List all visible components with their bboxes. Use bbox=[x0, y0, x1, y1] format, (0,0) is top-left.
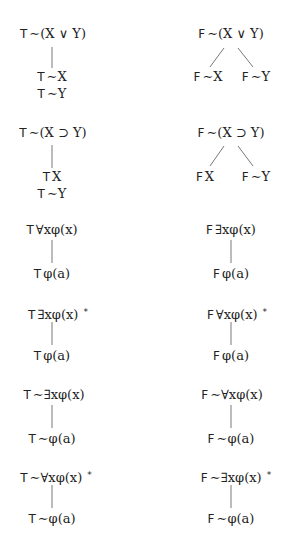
formula-text: ∼Y bbox=[47, 186, 66, 201]
formula-text: ∼φ(a) bbox=[217, 511, 255, 526]
sign-label: F bbox=[242, 70, 249, 84]
formula-text: φ(a) bbox=[222, 266, 249, 281]
star-marker: * bbox=[83, 307, 88, 317]
sign-label: F bbox=[206, 223, 213, 237]
formula-text: X bbox=[205, 169, 214, 184]
formula-text: φ(a) bbox=[222, 348, 249, 363]
sign-label: T bbox=[28, 308, 35, 322]
rule-root-formula: F∀xφ(x)* bbox=[207, 305, 267, 322]
rule-child-formula: Fφ(a) bbox=[213, 267, 249, 281]
edge-line-left bbox=[210, 48, 224, 67]
rule-root-formula: T∼(X ⊃ Y) bbox=[19, 126, 86, 140]
sign-label: F bbox=[196, 170, 203, 184]
rule-branch-right: F∼Y bbox=[242, 70, 270, 84]
sign-label: T bbox=[38, 187, 45, 201]
edge-line-right bbox=[238, 48, 253, 67]
rule-branch-left: F∼X bbox=[193, 70, 222, 84]
rule-root-formula: T∼∀xφ(x)* bbox=[20, 468, 92, 485]
formula-text: ∃xφ(x) bbox=[215, 222, 256, 237]
rule-branch-left: FX bbox=[196, 170, 214, 184]
sign-label: F bbox=[207, 308, 214, 322]
star-marker: * bbox=[87, 470, 92, 480]
formula-text: ∀xφ(x) bbox=[216, 307, 258, 322]
rule-root-formula: T∃xφ(x)* bbox=[28, 305, 88, 322]
formula-text: ∼∃xφ(x) bbox=[33, 387, 85, 402]
formula-text: ∼(X ∨ Y) bbox=[207, 26, 264, 41]
rule-root-formula: T∀xφ(x) bbox=[26, 223, 77, 237]
formula-text: ∼φ(a) bbox=[217, 431, 255, 446]
formula-text: ∼∀xφ(x) bbox=[30, 470, 83, 485]
sign-label: T bbox=[28, 512, 35, 526]
sign-label: T bbox=[20, 27, 27, 41]
star-marker: * bbox=[263, 307, 268, 317]
rule-child-formula: T∼X bbox=[37, 70, 67, 84]
rule-child-formula: T∼φ(a) bbox=[28, 432, 75, 446]
rule-child-formula: T∼Y bbox=[38, 87, 67, 101]
formula-text: φ(a) bbox=[43, 348, 70, 363]
rule-root-formula: F∼∃xφ(x)* bbox=[201, 468, 271, 485]
rule-child-formula: F∼φ(a) bbox=[208, 512, 255, 526]
formula-text: ∼φ(a) bbox=[38, 511, 76, 526]
formula-text: ∼X bbox=[202, 69, 222, 84]
formula-text: ∃xφ(x) bbox=[37, 307, 78, 322]
sign-label: T bbox=[19, 126, 26, 140]
sign-label: F bbox=[198, 126, 205, 140]
rule-child-formula: Tφ(a) bbox=[34, 267, 70, 281]
formula-text: ∼φ(a) bbox=[38, 431, 76, 446]
star-marker: * bbox=[267, 470, 272, 480]
sign-label: F bbox=[198, 27, 205, 41]
sign-label: T bbox=[38, 87, 45, 101]
formula-text: ∼(X ⊃ Y) bbox=[206, 125, 264, 140]
sign-label: F bbox=[201, 471, 208, 485]
sign-label: F bbox=[201, 388, 208, 402]
edge-line-right bbox=[238, 146, 253, 166]
rule-root-formula: T∼∃xφ(x) bbox=[23, 388, 84, 402]
rule-branch-right: F∼Y bbox=[242, 170, 270, 184]
sign-label: T bbox=[28, 432, 35, 446]
sign-label: T bbox=[34, 349, 41, 363]
sign-label: T bbox=[37, 70, 44, 84]
formula-text: ∼(X ∨ Y) bbox=[29, 26, 86, 41]
rule-root-formula: F∼(X ∨ Y) bbox=[198, 27, 264, 41]
rule-child-formula: TX bbox=[43, 170, 62, 184]
formula-text: X bbox=[52, 169, 61, 184]
sign-label: T bbox=[43, 170, 50, 184]
formula-text: ∼∃xφ(x) bbox=[210, 470, 262, 485]
formula-text: ∼X bbox=[47, 69, 67, 84]
sign-label: T bbox=[23, 388, 30, 402]
rule-child-formula: F∼φ(a) bbox=[208, 432, 255, 446]
edge-line-left bbox=[210, 146, 224, 166]
rule-root-formula: F∼∀xφ(x) bbox=[201, 388, 263, 402]
sign-label: F bbox=[208, 432, 215, 446]
rule-root-formula: F∼(X ⊃ Y) bbox=[198, 126, 265, 140]
sign-label: F bbox=[242, 170, 249, 184]
sign-label: F bbox=[213, 267, 220, 281]
formula-text: ∼Y bbox=[47, 86, 66, 101]
sign-label: F bbox=[213, 349, 220, 363]
sign-label: F bbox=[193, 70, 200, 84]
rule-root-formula: F∃xφ(x) bbox=[206, 223, 256, 237]
formula-text: ∀xφ(x) bbox=[36, 222, 78, 237]
rule-root-formula: T∼(X ∨ Y) bbox=[20, 27, 86, 41]
rule-child-formula: T∼φ(a) bbox=[28, 512, 75, 526]
rule-child-formula: Fφ(a) bbox=[213, 349, 249, 363]
sign-label: T bbox=[34, 267, 41, 281]
formula-text: φ(a) bbox=[43, 266, 70, 281]
formula-text: ∼(X ⊃ Y) bbox=[29, 125, 87, 140]
rule-child-formula: Tφ(a) bbox=[34, 349, 70, 363]
formula-text: ∼Y bbox=[251, 169, 270, 184]
sign-label: F bbox=[208, 512, 215, 526]
formula-text: ∼∀xφ(x) bbox=[210, 387, 263, 402]
formula-text: ∼Y bbox=[251, 69, 270, 84]
sign-label: T bbox=[20, 471, 27, 485]
sign-label: T bbox=[26, 223, 33, 237]
rule-child-formula: T∼Y bbox=[38, 187, 67, 201]
